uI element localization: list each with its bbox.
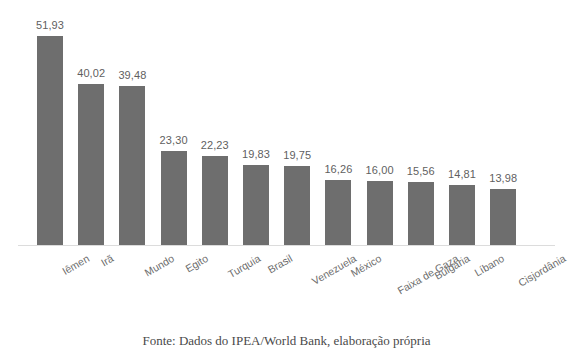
bar-value-label: 16,00 — [366, 164, 394, 176]
bar-value-label: 14,81 — [448, 168, 476, 180]
x-axis-category-labels: IêmenIrãMundoEgitoTurquiaBrasilVenezuela… — [18, 246, 555, 316]
bar-value-label: 15,56 — [407, 165, 435, 177]
bar-value-label: 19,75 — [283, 149, 311, 161]
x-axis-tick-label: Brasil — [266, 252, 295, 276]
bar-rect[interactable] — [367, 181, 393, 245]
x-axis-tick-label: Iêmen — [60, 252, 91, 277]
bar-chart-figure: 51,9340,0239,4823,3022,2319,8319,7516,26… — [0, 0, 573, 348]
plot-area: 51,9340,0239,4823,3022,2319,8319,7516,26… — [18, 10, 555, 245]
bar-value-label: 13,98 — [489, 172, 517, 184]
chart-caption: Fonte: Dados do IPEA/World Bank, elabora… — [0, 333, 573, 348]
bar-rect[interactable] — [78, 84, 104, 245]
x-axis-tick-label: Líbano — [472, 252, 506, 278]
bar-rect[interactable] — [325, 180, 351, 245]
bar-rect[interactable] — [161, 151, 187, 245]
bar-rect[interactable] — [284, 166, 310, 245]
bar-value-label: 39,48 — [118, 69, 146, 81]
bar-rect[interactable] — [243, 165, 269, 245]
bar-rect[interactable] — [119, 86, 145, 245]
x-axis-tick-label: Turquia — [226, 252, 263, 280]
x-axis-tick-label: Mundo — [143, 252, 177, 278]
bar-value-label: 19,83 — [242, 148, 270, 160]
x-axis-tick-label: Cisjordânia — [516, 252, 567, 289]
bar-value-label: 22,23 — [201, 139, 229, 151]
bar-value-label: 51,93 — [36, 19, 64, 31]
bar-value-label: 23,30 — [160, 134, 188, 146]
x-axis-tick-label: Egito — [183, 252, 210, 274]
bar-rect[interactable] — [37, 36, 63, 245]
bar-value-label: 40,02 — [77, 67, 105, 79]
bar-rect[interactable] — [449, 185, 475, 245]
bar-rect[interactable] — [202, 156, 228, 245]
bar-value-label: 16,26 — [324, 163, 352, 175]
bar-rect[interactable] — [490, 189, 516, 245]
x-axis-tick-label: Irã — [99, 252, 116, 269]
bar-rect[interactable] — [408, 182, 434, 245]
